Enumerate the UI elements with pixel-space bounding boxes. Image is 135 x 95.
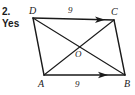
figure-page: 2. Yes D C B A O 9 9 — [0, 0, 135, 95]
vertex-label-o: O — [75, 49, 82, 59]
vertex-label-a: A — [38, 79, 44, 89]
side-measure-ab: 9 — [75, 80, 80, 89]
vertex-label-b: B — [124, 79, 130, 89]
vertex-label-c: C — [111, 7, 118, 17]
side-CB-line — [114, 20, 125, 75]
exercise-number: 2. — [2, 6, 10, 17]
answer-text: Yes — [2, 18, 19, 29]
vertex-label-d: D — [29, 6, 36, 16]
diagonal-DB-line — [33, 18, 125, 75]
side-DA-line — [33, 18, 44, 75]
diagonal-AC-line — [44, 20, 114, 75]
side-measure-dc: 9 — [68, 6, 73, 15]
